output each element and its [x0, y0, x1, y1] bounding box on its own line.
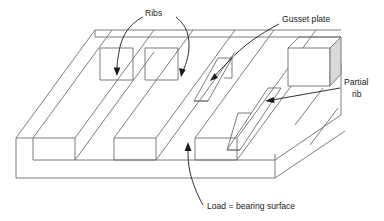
gusset-plate-2 [227, 88, 281, 150]
ribbed-plate-isometric-diagram: Ribs Gusset plate Partial rib Load = bea… [0, 0, 384, 221]
full-rib-2 [114, 30, 235, 160]
rib-notch-1 [100, 48, 133, 80]
leader-ribs-a [114, 17, 143, 76]
end-block [288, 37, 341, 86]
figure-container: Ribs Gusset plate Partial rib Load = bea… [0, 0, 384, 221]
leader-load-bearing-surface [185, 142, 203, 205]
label-gusset-plate: Gusset plate [282, 14, 330, 24]
assembly-back-edge [95, 30, 341, 37]
label-ribs: Ribs [145, 8, 162, 18]
label-partial-rib-line1: Partial [344, 77, 368, 87]
rib-notch-2 [145, 48, 178, 80]
label-load-bearing-surface: Load = bearing surface [207, 201, 295, 211]
label-partial-rib-line2: rib [352, 89, 362, 99]
partial-rib [295, 88, 338, 145]
